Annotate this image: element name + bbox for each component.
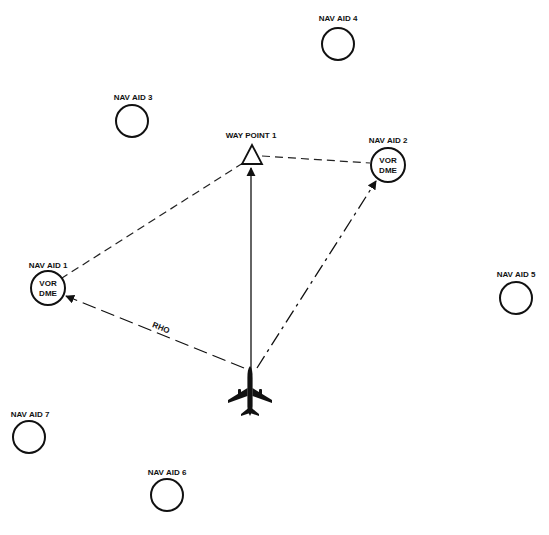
nav-station-icon	[13, 421, 45, 453]
arrow-to-nav2	[257, 181, 376, 368]
nav-aid-inner-line2: DME	[379, 166, 397, 175]
nav-aid-7[interactable]: NAV AID 7	[11, 410, 50, 453]
nav-aid-label: NAV AID 5	[497, 270, 536, 279]
nav-aid-inner-line1: VOR	[379, 156, 397, 165]
nav-station-icon	[151, 479, 183, 511]
nav-aid-label: NAV AID 6	[148, 468, 187, 477]
nav-aid-label: NAV AID 7	[11, 410, 50, 419]
nav-aid-6[interactable]: NAV AID 6	[148, 468, 187, 511]
nav-aid-4[interactable]: NAV AID 4	[319, 14, 358, 60]
vor-dme-station-icon	[371, 148, 405, 182]
nav-aid-3[interactable]: NAV AID 3	[114, 93, 153, 137]
nav-aid-label: NAV AID 2	[369, 136, 408, 145]
nav-aid-label: NAV AID 4	[319, 14, 358, 23]
nav-station-icon	[116, 105, 148, 137]
nav-aid-label: NAV AID 1	[29, 261, 68, 270]
waypoint-to-nav1-line	[62, 163, 243, 278]
waypoint-to-nav2-line	[262, 156, 370, 163]
waypoint-triangle-icon	[242, 145, 262, 164]
navigation-diagram: RHO WAY POINT 1 NAV AID 1 VOR DME NAV AI…	[0, 0, 549, 535]
nav-aid-1[interactable]: NAV AID 1 VOR DME	[29, 261, 68, 305]
nav-aid-label: NAV AID 3	[114, 93, 153, 102]
nav-station-icon	[500, 282, 532, 314]
nav-aid-inner-line2: DME	[39, 289, 57, 298]
waypoint-1[interactable]: WAY POINT 1	[226, 131, 277, 164]
aircraft-icon[interactable]	[228, 366, 272, 416]
vor-dme-station-icon	[31, 271, 65, 305]
waypoint-label: WAY POINT 1	[226, 131, 277, 140]
nav-aid-inner-line1: VOR	[39, 279, 57, 288]
rho-label: RHO	[151, 320, 171, 335]
nav-aid-2[interactable]: NAV AID 2 VOR DME	[369, 136, 408, 182]
rho-arrow-nav1	[66, 296, 244, 368]
nav-station-icon	[322, 28, 354, 60]
nav-aid-5[interactable]: NAV AID 5	[497, 270, 536, 314]
